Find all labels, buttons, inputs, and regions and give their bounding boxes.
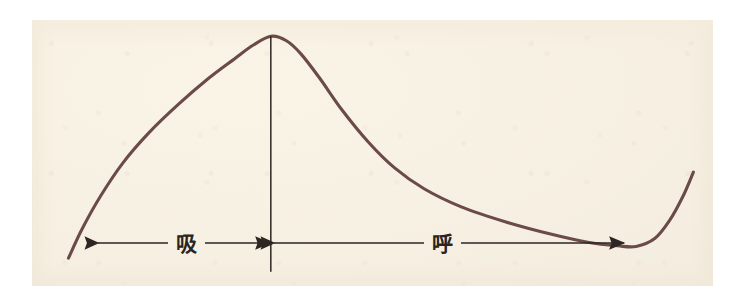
exhale-annotation: 呼 [274,232,624,256]
respiration-curve-chart: 吸 呼 [0,0,744,302]
curve-group [68,36,693,258]
exhale-label: 呼 [432,232,453,256]
figure-root: 吸 呼 [0,0,744,302]
respiration-curve-path [68,36,693,258]
inhale-annotation: 吸 [98,232,270,256]
inhale-label: 吸 [176,232,198,256]
